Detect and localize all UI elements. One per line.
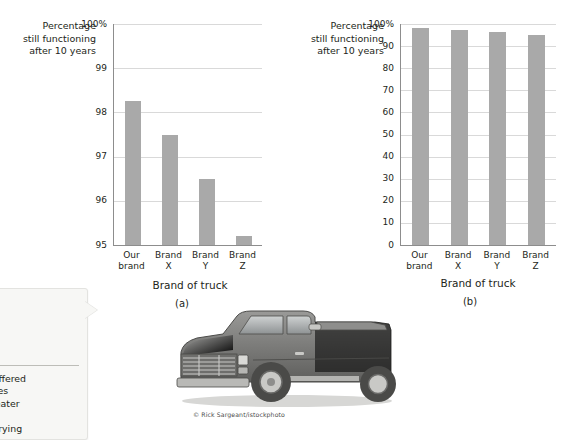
chart-a-xlabel: Brand of truck [110,279,270,291]
chart-b-xtick-label: BrandZ [511,250,561,272]
callout-tail-icon [84,301,97,319]
chart-b-caption: (b) [440,296,500,307]
chart-b-ytick-label: 70 [348,86,394,95]
chart-b-ytick-label: 40 [348,152,394,161]
callout-divider [0,365,79,366]
chart-a-bar [162,135,178,246]
chart-b-ytick-label: 10 [348,218,394,227]
chart-b-bar [451,30,468,245]
chart-b-bar [528,35,545,245]
chart-a-bar [125,101,141,245]
callout-line-2: ...and names [0,385,87,397]
chart-a-xtick-label: BrandZ [218,250,268,272]
chart-a-ytick-label: 96 [61,196,107,205]
chart-a-ylabel-line-3: after 10 years [8,45,96,58]
chart-b-gridline [401,24,556,25]
chart-a-ytick-label: 100% [61,20,107,29]
photo-credit: © Rick Sargeant/istockphoto [193,411,285,418]
chart-a-ytick-label: 99 [61,64,107,73]
chart-a-bar [236,236,252,245]
callout-line-4: ...hat does [0,410,87,422]
chart-a-bar [199,179,215,245]
chart-a-ytick-label: 98 [61,108,107,117]
chart-b-xtick-line-2: Z [511,261,561,272]
chart-b-bar [412,28,429,245]
chart-a-ytick-label: 95 [61,241,107,250]
chart-a-xtick-line-1: Brand [218,250,268,261]
chart-b-ytick-label: 90 [348,42,394,51]
truck-photo [175,300,397,412]
chart-b-xtick-line-1: Brand [511,250,561,261]
callout-line-5: ...ut the varying [0,423,87,435]
callout-line-1: ...acturer offered [0,373,87,385]
callout-text: ...acturer offered ...and names ...much … [0,373,87,435]
chart-a-xtick-line-2: Z [218,261,268,272]
chart-a-gridline [114,24,262,25]
chart-b-ytick-label: 100% [348,20,394,29]
chart-a-ytick-label: 97 [61,152,107,161]
chart-b-plot-area [400,24,556,246]
truck-illustration [175,300,397,412]
chart-b-ytick-label: 80 [348,64,394,73]
chart-b-xlabel: Brand of truck [398,277,558,289]
chart-b-ytick-label: 20 [348,196,394,205]
chart-a-ylabel-line-2: still functioning [8,33,96,46]
chart-b-ytick-label: 0 [348,241,394,250]
chart-b-ytick-label: 30 [348,174,394,183]
chart-a-gridline [114,68,262,69]
callout-line-3: ...much greater [0,398,87,410]
chart-b-ytick-label: 50 [348,130,394,139]
chart-b-bar [489,32,506,245]
chart-a-plot-area [113,24,262,246]
chart-b-ytick-label: 60 [348,108,394,117]
callout-box: ...acturer offered ...and names ...much … [0,288,88,440]
